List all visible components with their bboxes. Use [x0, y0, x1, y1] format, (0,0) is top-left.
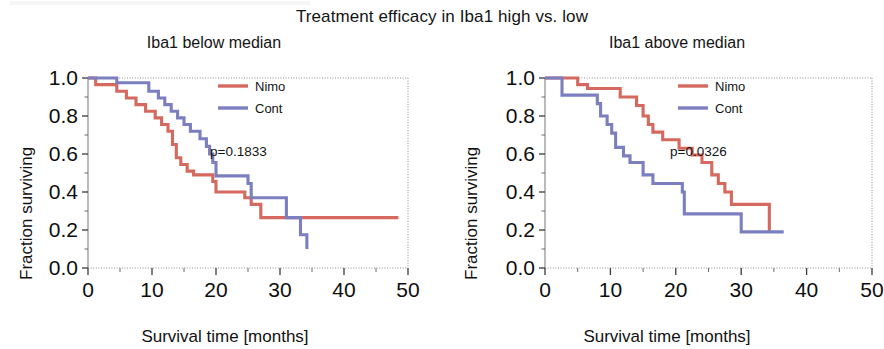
svg-text:0.0: 0.0 — [49, 256, 78, 279]
svg-text:0.8: 0.8 — [506, 104, 535, 127]
svg-text:40: 40 — [332, 278, 355, 301]
svg-text:50: 50 — [860, 278, 883, 301]
svg-text:20: 20 — [664, 278, 687, 301]
svg-text:50: 50 — [396, 278, 419, 301]
panel-iba1-above-median: Iba1 above median Fraction surviving Sur… — [442, 30, 884, 349]
legend-label-cont: Cont — [715, 101, 743, 116]
svg-text:20: 20 — [204, 278, 227, 301]
svg-text:0.6: 0.6 — [49, 142, 78, 165]
svg-text:0.0: 0.0 — [506, 256, 535, 279]
panel-iba1-below-median: Iba1 below median Fraction surviving Sur… — [0, 30, 442, 349]
legend-label-cont: Cont — [255, 101, 283, 116]
scan-artifact — [10, 1, 310, 5]
svg-text:40: 40 — [795, 278, 818, 301]
svg-text:1.0: 1.0 — [506, 66, 535, 89]
svg-text:0.6: 0.6 — [506, 142, 535, 165]
svg-text:30: 30 — [268, 278, 291, 301]
plot-area-right: 0.00.20.40.60.81.001020304050NimoContp=0… — [442, 30, 884, 349]
svg-text:0.2: 0.2 — [49, 218, 78, 241]
svg-text:0.2: 0.2 — [506, 218, 535, 241]
legend-label-nimo: Nimo — [715, 79, 745, 94]
figure-title: Treatment efficacy in Iba1 high vs. low — [0, 7, 884, 27]
legend-label-nimo: Nimo — [255, 79, 285, 94]
plot-area-left: 0.00.20.40.60.81.001020304050NimoContp=0… — [0, 30, 442, 349]
svg-text:0.8: 0.8 — [49, 104, 78, 127]
svg-text:30: 30 — [730, 278, 753, 301]
svg-text:0.4: 0.4 — [506, 180, 536, 203]
svg-text:0.4: 0.4 — [49, 180, 79, 203]
svg-text:0: 0 — [82, 278, 94, 301]
figure-container: Treatment efficacy in Iba1 high vs. low … — [0, 0, 884, 349]
svg-text:10: 10 — [599, 278, 622, 301]
svg-text:1.0: 1.0 — [49, 66, 78, 89]
p-value-label: p=0.1833 — [210, 144, 267, 159]
svg-text:0: 0 — [539, 278, 551, 301]
survival-curve-cont — [545, 78, 784, 232]
svg-text:10: 10 — [140, 278, 163, 301]
p-value-label: p=0.0326 — [670, 144, 727, 159]
